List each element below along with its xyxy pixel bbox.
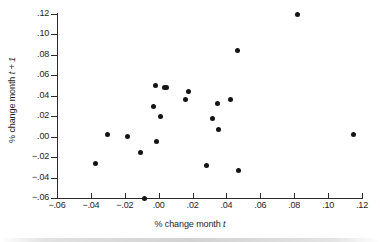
data-point: [125, 134, 130, 139]
x-tick-label: .08: [277, 201, 311, 210]
y-tick-label: .08: [21, 50, 49, 59]
plot-area: [57, 14, 362, 198]
scatter-plot-figure: −.06−.04−.02.00.02.04.06.08.10.12 −.06−.…: [0, 0, 380, 242]
x-axis-line: [57, 198, 363, 199]
y-tick-label: −.02: [21, 152, 49, 161]
x-tick-label: −.02: [108, 201, 142, 210]
data-point: [216, 127, 221, 132]
data-point: [151, 104, 156, 109]
x-tick-label: .10: [311, 201, 345, 210]
data-point: [142, 196, 147, 201]
data-point: [210, 116, 215, 121]
y-tick-label: .06: [21, 70, 49, 79]
x-tick-label: .00: [142, 201, 176, 210]
data-point: [153, 83, 158, 88]
x-tick-mark: [362, 193, 363, 199]
x-tick-label: −.06: [40, 201, 74, 210]
data-point: [351, 132, 356, 137]
data-point: [105, 132, 110, 137]
data-point: [164, 85, 169, 90]
x-tick-label: .12: [345, 201, 379, 210]
x-tick-label: −.04: [74, 201, 108, 210]
data-point: [158, 114, 163, 119]
data-point: [215, 101, 220, 106]
data-point: [236, 168, 241, 173]
x-tick-label: .02: [176, 201, 210, 210]
page-edge-strip: [0, 238, 380, 242]
data-point: [228, 97, 233, 102]
data-point: [138, 150, 143, 155]
y-tick-label: −.04: [21, 173, 49, 182]
data-point: [93, 161, 98, 166]
y-tick-label: .12: [21, 9, 49, 18]
data-point: [186, 89, 191, 94]
data-point: [204, 163, 209, 168]
data-point: [183, 97, 188, 102]
y-tick-label: .02: [21, 111, 49, 120]
y-tick-label: .10: [21, 29, 49, 38]
x-axis-title: % change month t: [0, 219, 380, 229]
data-point: [295, 12, 300, 17]
y-tick-label: .04: [21, 91, 49, 100]
y-axis-title: % change month t + 1: [7, 25, 17, 175]
data-point: [154, 139, 159, 144]
x-tick-label: .06: [243, 201, 277, 210]
y-tick-label: .00: [21, 132, 49, 141]
x-tick-label: .04: [209, 201, 243, 210]
data-point: [235, 48, 240, 53]
